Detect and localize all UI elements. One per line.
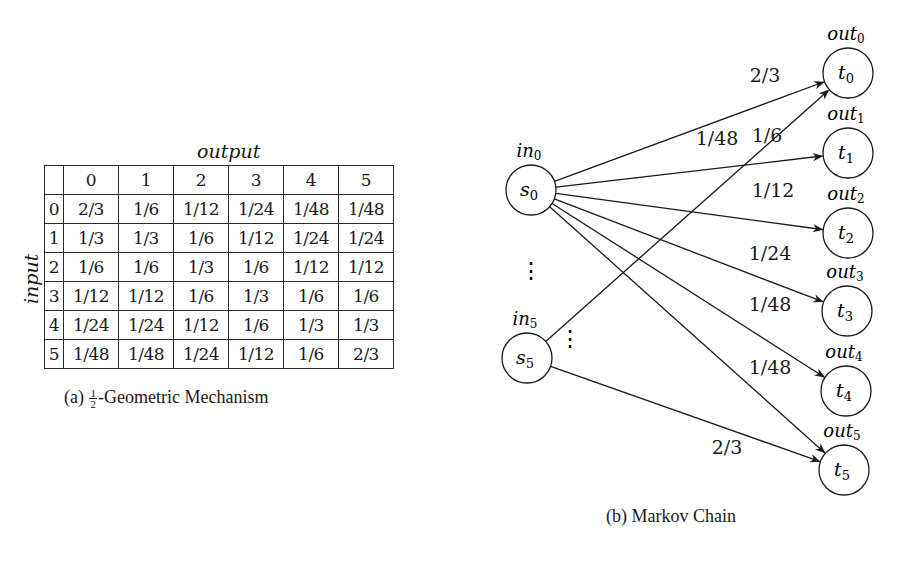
probability-cell: 2/3 [64, 195, 119, 224]
node-t4: t4out4 [821, 341, 871, 416]
caption-a-prefix: (a) [64, 387, 88, 407]
probability-cell: 1/3 [64, 224, 119, 253]
probability-cell: 1/12 [229, 340, 284, 369]
probability-cell: 1/3 [229, 282, 284, 311]
probability-cell: 1/12 [119, 282, 174, 311]
edge-s5-t5 [551, 366, 820, 461]
node-label: out2 [827, 183, 864, 206]
column-header: 4 [284, 166, 339, 195]
column-header: 2 [174, 166, 229, 195]
probability-cell: 1/6 [64, 253, 119, 282]
table-row: 02/31/61/121/241/481/48 [45, 195, 394, 224]
probability-cell: 1/3 [174, 253, 229, 282]
one-half-fraction: 12 [89, 388, 97, 409]
edge-probability-label: 1/12 [752, 179, 795, 201]
probability-cell: 1/12 [229, 224, 284, 253]
probability-cell: 1/6 [174, 224, 229, 253]
node-t5: t5out5 [819, 420, 869, 495]
probability-cell: 1/6 [119, 195, 174, 224]
column-header: 3 [229, 166, 284, 195]
edges-layer [546, 82, 829, 461]
table-row: 51/481/481/241/121/62/3 [45, 340, 394, 369]
table-row: 21/61/61/31/61/121/12 [45, 253, 394, 282]
node-label: in0 [517, 140, 542, 163]
column-header: 0 [64, 166, 119, 195]
probability-cell: 1/24 [284, 224, 339, 253]
column-header-row: 0 1 2 3 4 5 [45, 166, 394, 195]
probability-cell: 1/12 [64, 282, 119, 311]
probability-cell: 1/24 [119, 311, 174, 340]
probability-cell: 1/48 [339, 195, 394, 224]
node-label: out5 [823, 420, 860, 443]
row-header: 0 [45, 195, 64, 224]
probability-cell: 1/6 [339, 282, 394, 311]
table-row: 41/241/241/121/61/31/3 [45, 311, 394, 340]
table-body: 02/31/61/121/241/481/4811/31/31/61/121/2… [45, 195, 394, 369]
node-t0: t0out0 [823, 23, 873, 98]
node-t2: t2out2 [823, 183, 873, 258]
edge-probability-label: 1/48 [749, 293, 792, 315]
node-label: in5 [513, 308, 538, 331]
node-s0: s0in0 [506, 140, 556, 215]
node-s5: s5in5 [502, 308, 552, 383]
probability-cell: 1/6 [119, 253, 174, 282]
probability-cell: 1/6 [229, 311, 284, 340]
edge-s0-t0 [554, 82, 823, 181]
probability-cell: 1/24 [174, 340, 229, 369]
probability-cell: 1/6 [284, 340, 339, 369]
probability-cell: 1/3 [284, 311, 339, 340]
probability-cell: 2/3 [339, 340, 394, 369]
node-label: out1 [827, 103, 864, 126]
geometric-mechanism-panel: output input 0 1 2 3 4 5 02/31/61/121/24… [0, 0, 470, 569]
input-ellipsis: ⋮ [520, 258, 542, 283]
edge-s0-t4 [552, 203, 824, 377]
probability-cell: 1/3 [339, 311, 394, 340]
probability-cell: 1/48 [284, 195, 339, 224]
row-header: 4 [45, 311, 64, 340]
row-header: 3 [45, 282, 64, 311]
probability-cell: 1/12 [284, 253, 339, 282]
probability-cell: 1/12 [174, 311, 229, 340]
probability-cell: 1/6 [174, 282, 229, 311]
probability-cell: 1/12 [339, 253, 394, 282]
probability-cell: 1/12 [174, 195, 229, 224]
probability-cell: 1/24 [339, 224, 394, 253]
probability-cell: 1/6 [229, 253, 284, 282]
nodes-layer: s0in0s5in5t0out0t1out1t2out2t3out3t4out4… [502, 23, 873, 495]
node-label: out4 [825, 341, 863, 364]
node-label: out0 [827, 23, 864, 46]
edge-probability-label: 1/6 [752, 124, 783, 146]
output-axis-label: output [197, 140, 260, 162]
probability-cell: 1/6 [284, 282, 339, 311]
edge-probability-label: 1/48 [696, 127, 739, 149]
node-t3: t3out3 [822, 261, 872, 336]
probability-cell: 1/24 [229, 195, 284, 224]
edge-probability-label: 2/3 [712, 436, 743, 458]
caption-a-suffix: -Geometric Mechanism [98, 387, 268, 407]
node-label: out3 [826, 261, 863, 284]
row-header: 2 [45, 253, 64, 282]
column-header: 5 [339, 166, 394, 195]
table-row: 11/31/31/61/121/241/24 [45, 224, 394, 253]
edge-ellipsis: ⋮ [559, 326, 581, 351]
column-header: 1 [119, 166, 174, 195]
row-header: 5 [45, 340, 64, 369]
markov-chain-panel: s0in0s5in5t0out0t1out1t2out2t3out3t4out4… [470, 0, 904, 569]
caption-b: (b) Markov Chain [606, 506, 736, 527]
probability-cell: 1/48 [119, 340, 174, 369]
edge-probability-label: 2/3 [750, 64, 781, 86]
input-axis-label: input [20, 254, 42, 304]
markov-chain-diagram: s0in0s5in5t0out0t1out1t2out2t3out3t4out4… [470, 0, 904, 569]
edge-probability-label: 1/48 [749, 356, 792, 378]
edge-probability-label: 1/24 [749, 242, 792, 264]
probability-cell: 1/3 [119, 224, 174, 253]
row-header: 1 [45, 224, 64, 253]
probability-cell: 1/24 [64, 311, 119, 340]
node-t1: t1out1 [823, 103, 873, 178]
probability-cell: 1/48 [64, 340, 119, 369]
corner-cell [45, 166, 64, 195]
caption-a: (a) 12-Geometric Mechanism [64, 387, 268, 409]
table-row: 31/121/121/61/31/61/6 [45, 282, 394, 311]
mechanism-matrix-table: 0 1 2 3 4 5 02/31/61/121/241/481/4811/31… [44, 165, 394, 369]
